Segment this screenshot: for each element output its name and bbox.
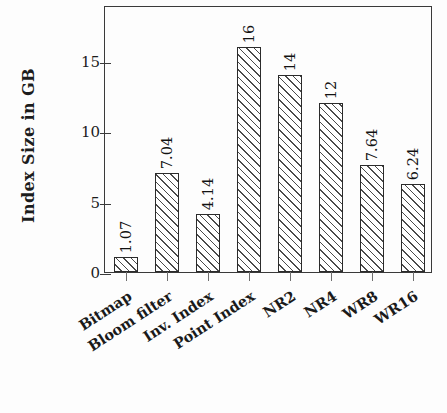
bar-value-label: 16: [241, 25, 257, 43]
plot-inner: 1.077.044.141614127.646.24: [105, 7, 431, 272]
x-axis-tick: [126, 272, 127, 281]
x-axis-tick: [208, 272, 209, 281]
y-axis-label-container: Index Size in GB: [0, 0, 56, 290]
x-axis-tick: [290, 272, 291, 281]
bar: [319, 103, 343, 272]
y-axis-label: Index Size in GB: [19, 68, 38, 223]
y-axis-tick: [100, 204, 111, 205]
bar: [278, 75, 302, 272]
y-axis-tick: [100, 133, 111, 134]
y-axis-tick-label: 5: [62, 194, 100, 212]
plot-area: 1.077.044.141614127.646.24: [104, 6, 432, 273]
bar-value-label: 6.24: [405, 148, 421, 180]
x-axis-tick: [249, 272, 250, 281]
y-axis-tick: [100, 63, 111, 64]
bar-value-label: 12: [323, 81, 339, 99]
y-axis-tick: [100, 274, 111, 275]
bar-value-label: 1.07: [118, 221, 134, 253]
x-axis-category-label: NR4: [300, 287, 339, 321]
bar-value-label: 7.64: [364, 128, 380, 160]
x-axis-tick: [372, 272, 373, 281]
bar-value-label: 7.04: [159, 137, 175, 169]
bar: [196, 214, 220, 272]
bar: [360, 165, 384, 272]
bar: [237, 47, 261, 272]
x-axis-tick: [331, 272, 332, 281]
y-axis-tick-label: 15: [62, 53, 100, 71]
y-axis-tick-label: 10: [62, 123, 100, 141]
x-axis-tick: [167, 272, 168, 281]
y-axis-tick-label: 0: [62, 264, 100, 282]
bar: [155, 173, 179, 272]
bar-value-label: 4.14: [200, 178, 216, 210]
x-axis-category-label: WR16: [370, 287, 420, 328]
bar: [114, 257, 138, 272]
bar-value-label: 14: [282, 53, 298, 71]
bar: [401, 184, 425, 272]
x-axis-tick: [413, 272, 414, 281]
x-axis-category-label: NR2: [259, 287, 298, 321]
chart-figure: Index Size in GB 051015 1.077.044.141614…: [0, 0, 447, 413]
